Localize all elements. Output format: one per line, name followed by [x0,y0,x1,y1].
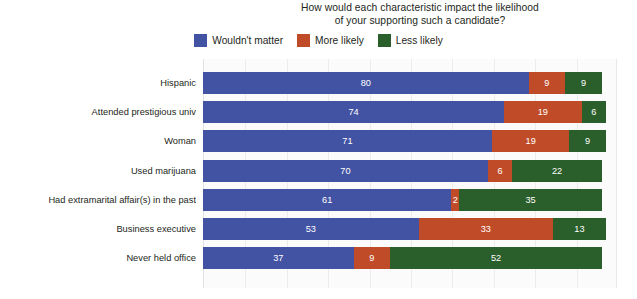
bar-value-label: 70 [340,166,350,176]
chart-row: Had extramarital affair(s) in the past61… [0,189,637,211]
stacked-bar: 71199 [203,130,610,152]
stacked-bar: 74196 [203,101,610,123]
bar-value-label: 19 [538,107,548,117]
stacked-bar-chart: How would each characteristic impact the… [0,0,637,299]
bar-value-label: 80 [361,78,371,88]
category-label: Used marijuana [0,160,196,182]
stacked-bar: 533313 [203,218,610,240]
bar-value-label: 9 [544,78,549,88]
bar-segment[interactable]: 71 [203,130,492,152]
bar-segment[interactable]: 9 [565,72,602,94]
bar-value-label: 61 [322,195,332,205]
bar-segment[interactable]: 6 [488,160,512,182]
chart-row: Attended prestigious univ74196 [0,101,637,123]
bar-value-label: 9 [369,253,374,263]
chart-rows: Hispanic8099Attended prestigious univ741… [0,0,637,299]
chart-row: Hispanic8099 [0,72,637,94]
bar-segment[interactable]: 37 [203,247,354,269]
bar-segment[interactable]: 80 [203,72,529,94]
chart-row: Business executive533313 [0,218,637,240]
bar-value-label: 6 [591,107,596,117]
bar-value-label: 22 [552,166,562,176]
bar-segment[interactable]: 6 [582,101,606,123]
bar-value-label: 53 [306,224,316,234]
bar-segment[interactable]: 35 [459,189,601,211]
bar-value-label: 33 [481,224,491,234]
bar-segment[interactable]: 74 [203,101,504,123]
chart-row: Never held office37952 [0,247,637,269]
category-label: Attended prestigious univ [0,101,196,123]
bar-value-label: 35 [525,195,535,205]
category-label: Never held office [0,247,196,269]
bar-segment[interactable]: 53 [203,218,419,240]
category-label: Business executive [0,218,196,240]
category-label: Hispanic [0,72,196,94]
bar-segment[interactable]: 9 [569,130,606,152]
bar-value-label: 9 [585,136,590,146]
bar-value-label: 13 [574,224,584,234]
bar-segment[interactable]: 19 [504,101,581,123]
chart-row: Woman71199 [0,130,637,152]
bar-value-label: 52 [491,253,501,263]
bar-value-label: 71 [342,136,352,146]
bar-segment[interactable]: 70 [203,160,488,182]
stacked-bar: 61235 [203,189,610,211]
stacked-bar: 37952 [203,247,610,269]
bar-segment[interactable]: 52 [390,247,602,269]
bar-segment[interactable]: 2 [451,189,459,211]
bar-segment[interactable]: 9 [354,247,391,269]
stacked-bar: 70622 [203,160,610,182]
bar-value-label: 74 [348,107,358,117]
bar-segment[interactable]: 9 [529,72,566,94]
bar-value-label: 37 [273,253,283,263]
category-label: Woman [0,130,196,152]
bar-segment[interactable]: 22 [512,160,602,182]
bar-value-label: 6 [498,166,503,176]
bar-value-label: 9 [581,78,586,88]
bar-value-label: 2 [453,195,458,205]
bar-segment[interactable]: 33 [419,218,553,240]
bar-segment[interactable]: 61 [203,189,451,211]
chart-row: Used marijuana70622 [0,160,637,182]
bar-segment[interactable]: 19 [492,130,569,152]
bar-value-label: 19 [526,136,536,146]
category-label: Had extramarital affair(s) in the past [0,189,196,211]
bar-segment[interactable]: 13 [553,218,606,240]
stacked-bar: 8099 [203,72,610,94]
